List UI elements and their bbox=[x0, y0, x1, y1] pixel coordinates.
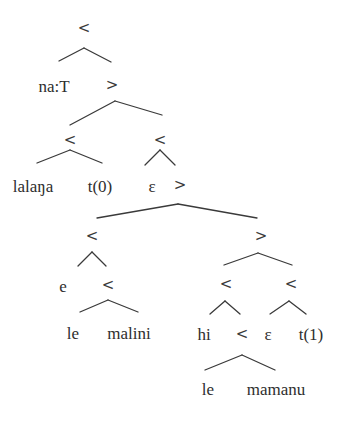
tree-branch-line bbox=[270, 301, 289, 314]
tree-node-word: malini bbox=[107, 325, 150, 342]
tree-branch-line bbox=[84, 48, 111, 62]
tree-node-word: t(1) bbox=[299, 326, 324, 343]
tree-edges bbox=[0, 0, 341, 433]
tree-branch-line bbox=[224, 253, 258, 265]
tree-node-operator: > bbox=[106, 78, 119, 93]
tree-node-word: le bbox=[202, 381, 214, 398]
tree-node-word: ε bbox=[264, 326, 271, 343]
syntax-tree-diagram: <na:T><<lalaŋat(0)ε><>e<<<lemalinihi<εt(… bbox=[0, 0, 341, 433]
tree-node-operator: < bbox=[78, 21, 91, 36]
tree-branch-line bbox=[205, 355, 242, 370]
tree-branch-line bbox=[92, 252, 106, 266]
tree-node-word: ε bbox=[148, 178, 155, 195]
tree-branch-line bbox=[70, 150, 102, 163]
tree-node-word: na:T bbox=[38, 78, 69, 95]
tree-branch-line bbox=[289, 301, 306, 314]
tree-node-word: e bbox=[59, 278, 67, 295]
tree-node-operator: < bbox=[236, 327, 249, 342]
tree-branch-line bbox=[115, 101, 162, 115]
tree-node-operator: > bbox=[255, 229, 268, 244]
tree-node-word: t(0) bbox=[88, 178, 113, 195]
tree-node-operator: < bbox=[86, 229, 99, 244]
tree-branch-line bbox=[78, 252, 92, 266]
tree-branch-line bbox=[108, 300, 138, 312]
tree-node-word: le bbox=[67, 325, 79, 342]
tree-node-operator: > bbox=[174, 178, 187, 193]
tree-node-operator: < bbox=[154, 133, 167, 148]
tree-branch-line bbox=[97, 204, 178, 218]
tree-branch-line bbox=[225, 301, 240, 314]
tree-node-operator: < bbox=[220, 277, 233, 292]
tree-node-operator: < bbox=[102, 278, 115, 293]
tree-node-word: hi bbox=[197, 326, 210, 343]
tree-branch-line bbox=[258, 253, 292, 265]
tree-branch-line bbox=[145, 150, 160, 165]
tree-branch-line bbox=[80, 300, 108, 312]
tree-branch-line bbox=[59, 48, 84, 61]
tree-branch-line bbox=[178, 204, 257, 218]
tree-branch-line bbox=[242, 355, 275, 370]
tree-node-operator: < bbox=[285, 277, 298, 292]
tree-branch-line bbox=[210, 301, 225, 314]
tree-branch-line bbox=[160, 150, 175, 165]
tree-node-operator: < bbox=[64, 133, 77, 148]
tree-branch-line bbox=[70, 101, 115, 125]
tree-branch-line bbox=[37, 150, 70, 163]
tree-node-word: lalaŋa bbox=[13, 178, 54, 195]
tree-node-word: mamanu bbox=[247, 381, 306, 398]
